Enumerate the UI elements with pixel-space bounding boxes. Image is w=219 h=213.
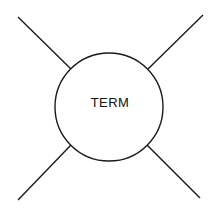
- node-diagram: TERM: [0, 0, 219, 213]
- connector-line-bottom-right[interactable]: [147, 145, 200, 198]
- connector-line-top-right[interactable]: [148, 15, 203, 69]
- term-node-label: TERM: [91, 95, 129, 110]
- connector-line-bottom-left[interactable]: [18, 145, 71, 200]
- connector-line-top-left[interactable]: [18, 17, 71, 69]
- diagram-canvas: TERM: [0, 0, 219, 213]
